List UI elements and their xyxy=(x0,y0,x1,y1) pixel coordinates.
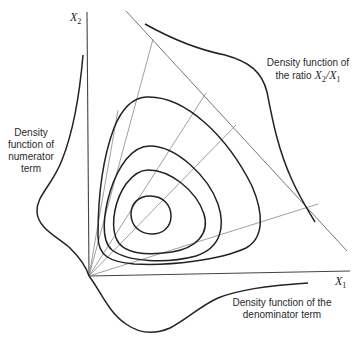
numerator-annotation: Density function of numerator term xyxy=(2,127,60,175)
ratio-x1: X1 xyxy=(329,68,340,82)
denominator-line1: Density function of the xyxy=(222,297,342,309)
diagonal-line xyxy=(126,11,347,251)
ratio-annotation-line2: the ratio X2/X1 xyxy=(258,69,358,86)
contour-2 xyxy=(114,170,206,254)
x2-axis xyxy=(87,12,89,276)
numerator-line1: Density xyxy=(2,127,60,139)
ratio-annotation-prefix: the ratio xyxy=(276,70,315,81)
x2-label-sub: 2 xyxy=(77,17,81,26)
ratio-x1-sub: 1 xyxy=(336,75,340,84)
x2-axis-label: X2 xyxy=(70,10,81,26)
contour-1 xyxy=(131,196,171,234)
ratio-annotation: Density function of the ratio X2/X1 xyxy=(258,57,358,86)
ratio-x2: X2 xyxy=(314,68,325,82)
numerator-line4: term xyxy=(2,163,60,175)
numerator-line3: numerator xyxy=(2,151,60,163)
x1-axis-label: X1 xyxy=(335,274,346,290)
x1-axis xyxy=(89,271,350,276)
contour-3 xyxy=(104,146,221,261)
numerator-line2: function of xyxy=(2,139,60,151)
x1-label-sub: 1 xyxy=(342,281,346,290)
denominator-annotation: Density function of the denominator term xyxy=(222,297,342,321)
ratio-annotation-line1: Density function of xyxy=(258,57,358,69)
ray-2 xyxy=(89,93,206,276)
contours xyxy=(98,97,260,264)
ratio-x2-main: X xyxy=(314,68,321,82)
denominator-line2: denominator term xyxy=(222,309,342,321)
